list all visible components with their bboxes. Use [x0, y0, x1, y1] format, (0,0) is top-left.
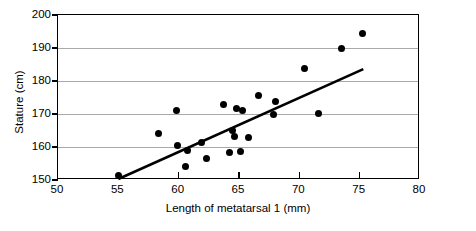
data-point [198, 139, 205, 146]
y-tick-label: 190 [32, 41, 51, 53]
data-point [115, 172, 122, 179]
x-tick-label: 75 [352, 183, 365, 195]
data-point [203, 155, 210, 162]
y-axis-label: Stature (cm) [13, 47, 25, 157]
y-tick-label: 160 [32, 140, 51, 152]
y-tick-label: 180 [32, 74, 51, 86]
x-tick-label: 60 [171, 183, 184, 195]
data-point [245, 134, 252, 141]
x-axis-label: Length of metatarsal 1 (mm) [57, 202, 419, 214]
data-point [359, 30, 366, 37]
data-point [272, 98, 279, 105]
regression-line-segment [118, 69, 363, 179]
x-tick-label: 70 [292, 183, 305, 195]
data-point [155, 130, 162, 137]
x-tick-label: 50 [51, 183, 64, 195]
data-point [174, 142, 181, 149]
x-tick-label: 80 [413, 183, 426, 195]
x-tick-label: 65 [232, 183, 245, 195]
data-point [237, 148, 244, 155]
data-point [173, 107, 180, 114]
plot-area [57, 14, 419, 179]
scatter-plot-figure: Stature (cm) 150 160 170 180 190 200 50 … [0, 0, 476, 231]
data-point [338, 45, 345, 52]
y-tick-label: 150 [32, 173, 51, 185]
x-tick-label: 55 [111, 183, 124, 195]
y-tick-label: 170 [32, 107, 51, 119]
trend-line [58, 15, 420, 180]
data-point [220, 101, 227, 108]
data-point [301, 65, 308, 72]
y-tick-label: 200 [32, 8, 51, 20]
data-point [231, 133, 238, 140]
data-point [226, 149, 233, 156]
data-point [315, 110, 322, 117]
